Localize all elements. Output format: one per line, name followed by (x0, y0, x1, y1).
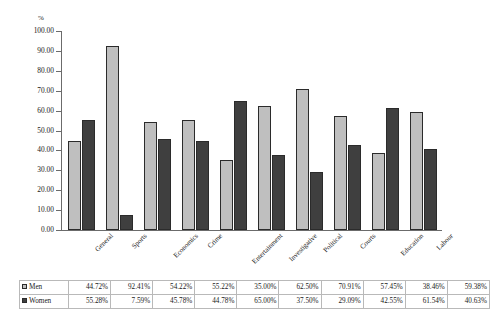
bar-group (328, 31, 366, 230)
x-axis-label-courts: Courts (358, 232, 377, 251)
table-cell-women-investigative: 37.50% (279, 295, 321, 309)
x-axis-label-political: Political (322, 232, 344, 254)
y-axis-tick-label-wrap: 20.00 (0, 186, 54, 194)
x-axis-line (61, 230, 442, 231)
y-axis-tick-label-wrap: 0.00 (0, 226, 54, 234)
table-cell-men-economics: 54.22% (153, 281, 195, 295)
bar-group (366, 31, 404, 230)
y-axis-tick-label: 20.00 (2, 186, 54, 194)
table-cell-women-entertainment: 65.00% (237, 295, 279, 309)
y-axis-tick-label: 80.00 (2, 67, 54, 75)
table-cell-men-education: 38.46% (405, 281, 447, 295)
table-cell-women-crime: 44.78% (195, 295, 237, 309)
x-axis-label-entertainment: Entertainment (251, 232, 285, 266)
x-axis-category-labels: GeneralSportsEconomicsCrimeEntertainment… (62, 232, 442, 278)
bar-men-sports (106, 46, 119, 230)
table-cell-women-political: 29.09% (321, 295, 363, 309)
table-cell-men-crime: 55.22% (195, 281, 237, 295)
series-label-women: Women (29, 297, 51, 305)
bar-group (214, 31, 252, 230)
table-cell-women-sports: 7.59% (111, 295, 153, 309)
bar-group (176, 31, 214, 230)
bar-men-entertainment (220, 160, 233, 230)
bar-group (252, 31, 290, 230)
table-cell-men-entertainment: 35.00% (237, 281, 279, 295)
series-label-men: Men (29, 283, 42, 291)
table-row-header-women: Women (20, 295, 69, 309)
bar-men-education (372, 153, 385, 230)
y-axis-tick-mark (56, 230, 62, 231)
legend-swatch-women-icon (22, 298, 27, 303)
y-axis-tick-label: 90.00 (2, 47, 54, 55)
table-cell-men-labour: 59.38% (447, 281, 489, 295)
bar-group (62, 31, 100, 230)
y-axis-unit-label: % (38, 14, 44, 22)
y-axis-tick-label-wrap: 50.00 (0, 127, 54, 135)
bar-women-sports (120, 215, 133, 230)
y-axis-tick-label: 50.00 (2, 127, 54, 135)
bar-men-courts (334, 116, 347, 230)
bar-group (404, 31, 442, 230)
table-row-men: Men 44.72%92.41%54.22%55.22%35.00%62.50%… (20, 281, 490, 295)
bar-men-general (68, 141, 81, 230)
bar-women-political (310, 172, 323, 230)
plot-area: % 100.0090.0080.0070.0060.0050.0040.0030… (0, 0, 453, 236)
table-cell-men-general: 44.72% (69, 281, 111, 295)
y-axis-tick-label-wrap: 100.00 (0, 27, 54, 35)
bar-men-political (296, 89, 309, 230)
x-axis-label-crime: Crime (206, 232, 224, 250)
table-cell-women-economics: 45.78% (153, 295, 195, 309)
y-axis-tick-label-wrap: 40.00 (0, 146, 54, 154)
bar-men-investigative (258, 106, 271, 230)
x-axis-label-education: Education (399, 232, 425, 258)
bar-men-economics (144, 122, 157, 230)
data-table: Men 44.72%92.41%54.22%55.22%35.00%62.50%… (19, 280, 490, 309)
bar-group (138, 31, 176, 230)
y-axis-tick-label: 30.00 (2, 166, 54, 174)
y-axis-tick-label-wrap: 70.00 (0, 87, 54, 95)
table-cell-women-courts: 42.55% (363, 295, 405, 309)
y-axis-tick-label: 0.00 (2, 226, 54, 234)
y-axis-tick-label-wrap: 80.00 (0, 67, 54, 75)
bar-women-entertainment (234, 101, 247, 230)
bar-women-general (82, 120, 95, 230)
table-cell-men-courts: 57.45% (363, 281, 405, 295)
table-cell-men-sports: 92.41% (111, 281, 153, 295)
y-axis-tick-label-wrap: 10.00 (0, 206, 54, 214)
table-cell-women-education: 61.54% (405, 295, 447, 309)
bar-group (100, 31, 138, 230)
y-axis-tick-label: 60.00 (2, 107, 54, 115)
bar-women-economics (158, 139, 171, 230)
table-row-women: Women 55.28%7.59%45.78%44.78%65.00%37.50… (20, 295, 490, 309)
y-axis-tick-label: 10.00 (2, 206, 54, 214)
bars-layer (62, 31, 442, 230)
bar-women-crime (196, 141, 209, 230)
y-axis-tick-label-wrap: 30.00 (0, 166, 54, 174)
y-axis-tick-label: 100.00 (2, 27, 54, 35)
bar-women-education (386, 108, 399, 230)
y-axis-tick-label-wrap: 60.00 (0, 107, 54, 115)
table-cell-men-investigative: 62.50% (279, 281, 321, 295)
table-cell-men-political: 70.91% (321, 281, 363, 295)
table-cell-women-labour: 40.63% (447, 295, 489, 309)
bar-men-labour (410, 112, 423, 230)
y-axis-tick-label: 70.00 (2, 87, 54, 95)
bar-women-courts (348, 145, 361, 230)
bar-women-labour (424, 149, 437, 230)
table-cell-women-general: 55.28% (69, 295, 111, 309)
x-axis-label-general: General (93, 232, 114, 253)
bar-men-crime (182, 120, 195, 230)
table-row-header-men: Men (20, 281, 69, 295)
x-axis-label-sports: Sports (130, 232, 148, 250)
x-axis-label-economics: Economics (172, 232, 200, 260)
y-axis-tick-label-wrap: 90.00 (0, 47, 54, 55)
bar-group (290, 31, 328, 230)
y-axis-tick-label: 40.00 (2, 146, 54, 154)
bar-women-investigative (272, 155, 285, 230)
legend-swatch-men-icon (22, 284, 27, 289)
x-axis-label-investigative: Investigative (288, 232, 319, 263)
x-axis-label-labour: Labour (435, 232, 455, 252)
